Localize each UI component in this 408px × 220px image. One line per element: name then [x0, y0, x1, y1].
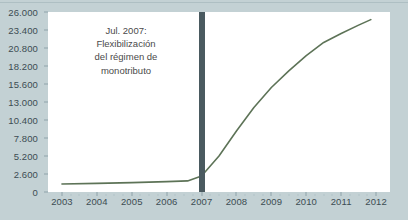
y-axis-tick-label: 7.800	[14, 133, 38, 144]
x-axis-tick-mark	[201, 192, 202, 196]
x-axis-tick-mark	[166, 192, 167, 196]
x-axis-minor-tick	[280, 194, 281, 196]
y-axis: 02.6005.2007.80010.40013.00015.60018.200…	[0, 12, 44, 192]
x-axis-tick-label: 2003	[51, 196, 73, 207]
x-axis-tick-mark	[96, 192, 97, 196]
x-axis-tick-mark	[306, 192, 307, 196]
y-axis-tick-label: 18.200	[8, 61, 38, 72]
x-axis-tick-label: 2010	[295, 196, 317, 207]
x-axis-minor-tick	[288, 194, 289, 196]
x-axis-tick-mark	[131, 192, 132, 196]
x-axis-tick-label: 2004	[86, 196, 108, 207]
annotation-line-1: Jul. 2007:	[62, 24, 190, 37]
x-axis-minor-tick	[349, 194, 350, 196]
x-axis-tick-mark	[341, 192, 342, 196]
top-divider	[0, 2, 408, 3]
x-axis-tick-mark	[271, 192, 272, 196]
x-axis-minor-tick	[114, 194, 115, 196]
x-axis-minor-tick	[175, 194, 176, 196]
x-axis-minor-tick	[105, 194, 106, 196]
x-axis-minor-tick	[184, 194, 185, 196]
y-axis-tick-label: 10.400	[8, 115, 38, 126]
y-axis-tick-label: 2.600	[14, 169, 38, 180]
x-axis-minor-tick	[314, 194, 315, 196]
x-axis-minor-tick	[140, 194, 141, 196]
y-axis-tick-label: 0	[33, 187, 38, 198]
y-axis-tick-label: 15.600	[8, 79, 38, 90]
x-axis-tick-label: 2008	[226, 196, 248, 207]
y-axis-tick-label: 23.400	[8, 25, 38, 36]
x-axis-tick-mark	[61, 192, 62, 196]
x-axis-tick-label: 2011	[331, 196, 352, 207]
event-marker-jul-2007	[199, 12, 205, 192]
x-axis-minor-tick	[358, 194, 359, 196]
y-axis-tick-label: 26.000	[8, 7, 38, 18]
x-axis-minor-tick	[323, 194, 324, 196]
x-axis-tick-label: 2005	[121, 196, 143, 207]
x-axis-tick-label: 2007	[191, 196, 213, 207]
x-axis-minor-tick	[79, 194, 80, 196]
x-axis-minor-tick	[210, 194, 211, 196]
y-axis-tick-label: 5.200	[14, 151, 38, 162]
x-axis-minor-tick	[70, 194, 71, 196]
x-axis-minor-tick	[245, 194, 246, 196]
event-annotation: Jul. 2007: Flexibilización del régimen d…	[62, 24, 190, 77]
x-axis-tick-label: 2006	[156, 196, 178, 207]
x-axis-tick-mark	[236, 192, 237, 196]
x-axis-tick-label: 2012	[365, 196, 387, 207]
x-axis-tick-label: 2009	[261, 196, 283, 207]
y-axis-tick-label: 13.000	[8, 97, 38, 108]
x-axis-minor-tick	[253, 194, 254, 196]
annotation-line-2: Flexibilización	[62, 37, 190, 50]
x-axis: 2003200420052006200720082009201020112012	[48, 196, 390, 216]
annotation-line-3: del régimen de	[62, 50, 190, 63]
x-axis-minor-tick	[149, 194, 150, 196]
line-chart: 02.6005.2007.80010.40013.00015.60018.200…	[0, 0, 408, 220]
y-axis-tick-label: 20.800	[8, 43, 38, 54]
annotation-line-4: monotributo	[62, 64, 190, 77]
x-axis-tick-mark	[376, 192, 377, 196]
x-axis-minor-tick	[219, 194, 220, 196]
